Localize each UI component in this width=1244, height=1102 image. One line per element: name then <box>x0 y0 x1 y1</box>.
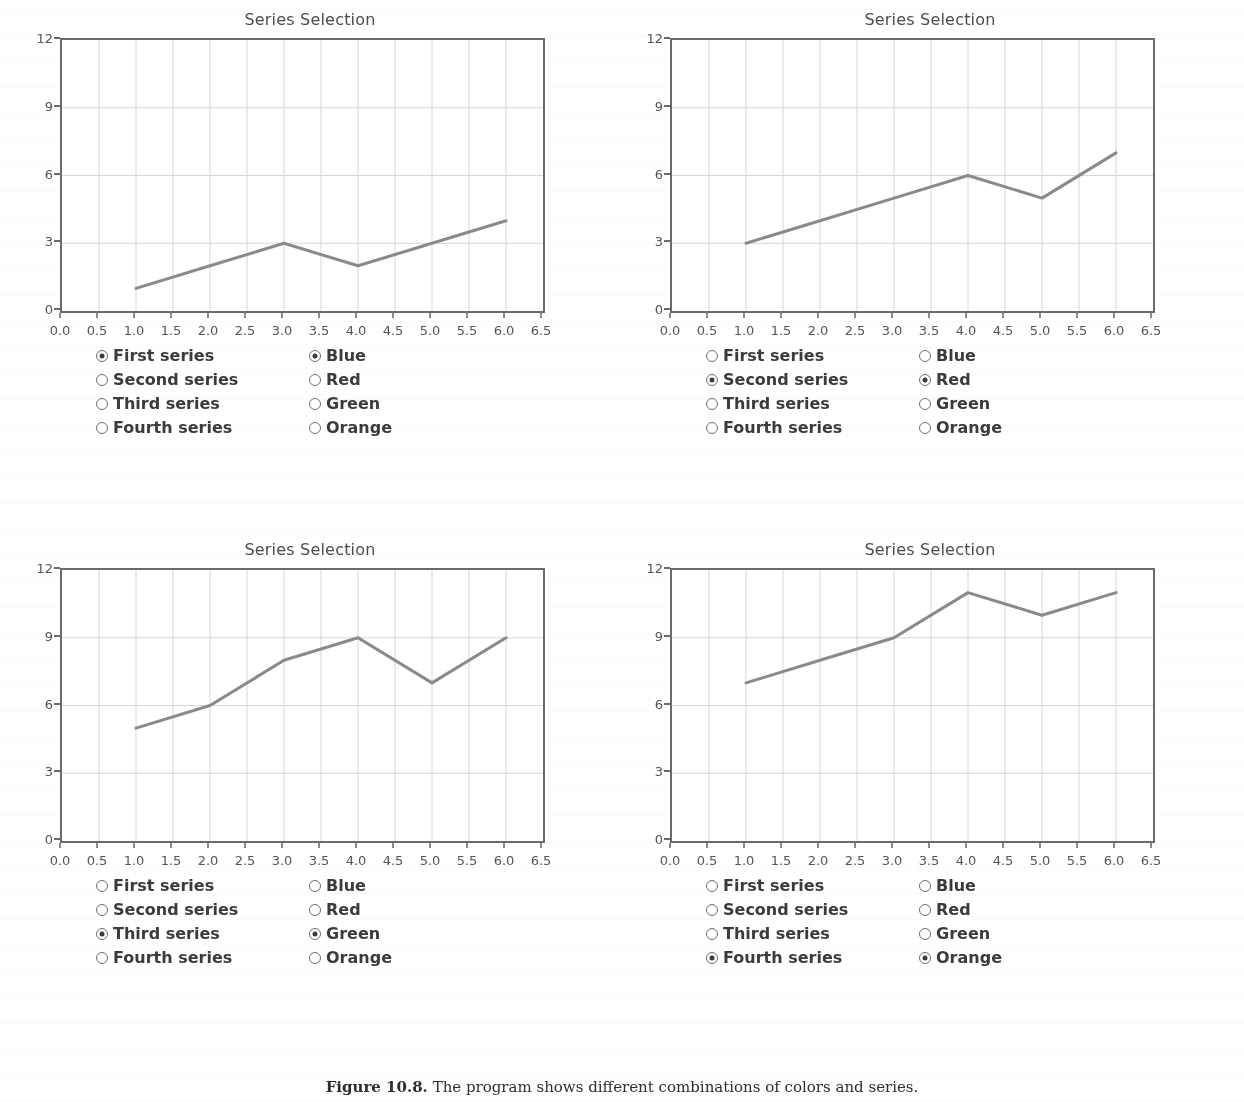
radio-option-color-1[interactable]: Blue <box>919 344 1002 368</box>
x-axis-tick-label: 1.5 <box>771 323 792 338</box>
x-axis-tick-label: 5.0 <box>420 853 441 868</box>
radio-button-icon[interactable] <box>919 422 931 434</box>
radio-button-icon[interactable] <box>96 398 108 410</box>
radio-button-icon[interactable] <box>309 880 321 892</box>
x-axis-tick-label: 1.0 <box>734 853 755 868</box>
x-axis-tick-mark <box>928 313 930 318</box>
y-axis-tick-label: 9 <box>655 628 663 643</box>
radio-option-color-2[interactable]: Red <box>919 898 1002 922</box>
radio-option-label: Fourth series <box>723 420 842 436</box>
x-axis-tick-label: 0.0 <box>50 853 71 868</box>
x-axis-tick-mark <box>96 843 98 848</box>
y-axis-tick-mark <box>54 635 60 637</box>
radio-button-icon[interactable] <box>309 952 321 964</box>
radio-option-label: Third series <box>113 396 220 412</box>
radio-option-color-4[interactable]: Orange <box>309 946 392 970</box>
radio-option-series-3[interactable]: Third series <box>96 922 301 946</box>
y-axis-tick-mark <box>664 37 670 39</box>
radio-button-icon[interactable] <box>919 904 931 916</box>
radio-button-icon[interactable] <box>309 374 321 386</box>
radio-button-icon[interactable] <box>919 398 931 410</box>
chart-title: Series Selection <box>0 10 620 29</box>
x-axis-tick-mark <box>355 843 357 848</box>
radio-button-icon[interactable] <box>96 374 108 386</box>
radio-button-icon[interactable] <box>706 422 718 434</box>
x-axis-tick-label: 1.0 <box>124 323 145 338</box>
radio-button-icon[interactable] <box>919 880 931 892</box>
radio-button-icon[interactable] <box>706 952 718 964</box>
radio-button-icon[interactable] <box>919 374 931 386</box>
y-axis-tick-mark <box>54 567 60 569</box>
radio-button-icon[interactable] <box>919 350 931 362</box>
y-axis-tick-label: 0 <box>45 832 53 847</box>
figure-caption: Figure 10.8. The program shows different… <box>0 1078 1244 1102</box>
radio-option-color-2[interactable]: Red <box>919 368 1002 392</box>
radio-option-series-4[interactable]: Fourth series <box>706 416 911 440</box>
radio-option-color-2[interactable]: Red <box>309 368 392 392</box>
radio-option-color-1[interactable]: Blue <box>309 344 392 368</box>
radio-option-series-2[interactable]: Second series <box>706 898 911 922</box>
radio-option-series-3[interactable]: Third series <box>706 392 911 416</box>
radio-option-color-4[interactable]: Orange <box>919 416 1002 440</box>
radio-button-icon[interactable] <box>309 928 321 940</box>
radio-button-icon[interactable] <box>706 350 718 362</box>
radio-button-icon[interactable] <box>96 928 108 940</box>
radio-option-color-3[interactable]: Green <box>309 392 392 416</box>
x-axis-tick-mark <box>244 313 246 318</box>
radio-button-icon[interactable] <box>309 350 321 362</box>
radio-option-color-4[interactable]: Orange <box>919 946 1002 970</box>
radio-button-icon[interactable] <box>919 952 931 964</box>
x-axis-tick-mark <box>207 843 209 848</box>
radio-button-icon[interactable] <box>96 952 108 964</box>
radio-option-label: Fourth series <box>113 950 232 966</box>
radio-option-color-3[interactable]: Green <box>919 392 1002 416</box>
radio-option-color-1[interactable]: Blue <box>919 874 1002 898</box>
legend-radio-groups: First seriesBlueSecond seriesRedThird se… <box>96 874 392 970</box>
radio-option-label: Green <box>936 396 990 412</box>
x-axis-tick-label: 3.0 <box>272 323 293 338</box>
x-axis-tick-label: 4.5 <box>383 853 404 868</box>
radio-button-icon[interactable] <box>706 398 718 410</box>
radio-button-icon[interactable] <box>96 880 108 892</box>
radio-button-icon[interactable] <box>309 422 321 434</box>
radio-option-series-1[interactable]: First series <box>706 344 911 368</box>
radio-option-color-1[interactable]: Blue <box>309 874 392 898</box>
x-axis-tick-label: 3.5 <box>309 323 330 338</box>
radio-option-color-4[interactable]: Orange <box>309 416 392 440</box>
radio-option-series-2[interactable]: Second series <box>96 368 301 392</box>
radio-option-series-4[interactable]: Fourth series <box>96 946 301 970</box>
radio-button-icon[interactable] <box>706 928 718 940</box>
radio-option-series-1[interactable]: First series <box>96 874 301 898</box>
radio-option-label: Fourth series <box>113 420 232 436</box>
radio-option-label: First series <box>113 348 214 364</box>
radio-button-icon[interactable] <box>96 350 108 362</box>
radio-option-series-2[interactable]: Second series <box>706 368 911 392</box>
radio-option-color-2[interactable]: Red <box>309 898 392 922</box>
legend-radio-groups: First seriesBlueSecond seriesRedThird se… <box>96 344 392 440</box>
radio-option-series-4[interactable]: Fourth series <box>96 416 301 440</box>
radio-option-color-3[interactable]: Green <box>309 922 392 946</box>
radio-option-series-2[interactable]: Second series <box>96 898 301 922</box>
plot-area <box>60 38 545 313</box>
radio-button-icon[interactable] <box>706 904 718 916</box>
x-axis-tick-label: 2.0 <box>808 323 829 338</box>
radio-button-icon[interactable] <box>919 928 931 940</box>
radio-button-icon[interactable] <box>96 904 108 916</box>
x-axis-tick-label: 1.0 <box>124 853 145 868</box>
radio-option-series-1[interactable]: First series <box>96 344 301 368</box>
radio-button-icon[interactable] <box>706 374 718 386</box>
y-axis-tick-mark <box>664 635 670 637</box>
x-axis-tick-label: 4.0 <box>956 323 977 338</box>
radio-option-series-4[interactable]: Fourth series <box>706 946 911 970</box>
radio-button-icon[interactable] <box>706 880 718 892</box>
radio-option-series-1[interactable]: First series <box>706 874 911 898</box>
x-axis-tick-mark <box>1002 843 1004 848</box>
radio-option-series-3[interactable]: Third series <box>706 922 911 946</box>
radio-button-icon[interactable] <box>309 398 321 410</box>
radio-option-label: Red <box>326 902 361 918</box>
radio-option-color-3[interactable]: Green <box>919 922 1002 946</box>
x-axis-tick-label: 2.5 <box>845 853 866 868</box>
radio-button-icon[interactable] <box>309 904 321 916</box>
radio-option-series-3[interactable]: Third series <box>96 392 301 416</box>
radio-button-icon[interactable] <box>96 422 108 434</box>
